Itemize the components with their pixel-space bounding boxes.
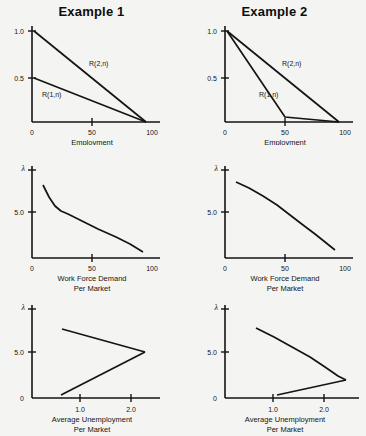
series-label-r2n: R(2,n) (282, 60, 301, 68)
chart-example-2-unemployment: λ 5.0 0 1.0 2.0 Average Unemployment Per… (183, 291, 366, 436)
y-axis-title-lambda: λ (21, 164, 26, 173)
x-tick-label-100: 100 (339, 265, 351, 272)
x-tick-label-50: 50 (281, 265, 289, 272)
series-line-r2n (34, 31, 146, 122)
x-tick-label-50: 50 (281, 129, 289, 136)
x-tick-label-2.0: 2.0 (319, 406, 329, 413)
x-tick-label-50: 50 (88, 265, 96, 272)
chart-example-1-workforce: λ 5.0 0 50 100 Work Force Demand Per Mar… (0, 148, 183, 293)
y-axis-title-lambda: λ (214, 303, 219, 312)
chart-example-2-workforce: λ 5.0 0 50 100 Work Force Demand Per Mar… (183, 148, 366, 293)
x-axis-title: Employment (71, 138, 114, 145)
x-axis-title-line2: Per Market (74, 425, 112, 434)
y-tick-label-0.5: 0.5 (207, 75, 217, 82)
x-axis-title-line2: Per Market (267, 425, 305, 434)
x-tick-label-0: 0 (223, 265, 227, 272)
series-line-r2n (227, 31, 339, 122)
x-tick-label-2.0: 2.0 (126, 406, 136, 413)
chart-example-2-employment: 1.0 0.5 0 50 100 R(2,n) R(1,n) Employmen… (183, 0, 366, 145)
x-tick-label-0: 0 (30, 129, 34, 136)
x-axis-title-line1: Work Force Demand (250, 274, 319, 283)
chart-example-1-unemployment: λ 5.0 0 1.0 2.0 Average Unemployment Per… (0, 291, 183, 436)
panel-example-1-middle: λ 5.0 0 50 100 Work Force Demand Per Mar… (0, 148, 183, 293)
x-axis-title-line1: Average Unemployment (52, 415, 133, 424)
panel-example-1-bottom: λ 5.0 0 1.0 2.0 Average Unemployment Per… (0, 291, 183, 436)
series-label-r2n: R(2,n) (89, 60, 108, 68)
y-tick-label-0: 0 (20, 395, 24, 402)
panel-example-2-bottom: λ 5.0 0 1.0 2.0 Average Unemployment Per… (183, 291, 366, 436)
series-line-upper-branch (256, 328, 346, 380)
x-axis-title-line1: Average Unemployment (245, 415, 326, 424)
x-tick-label-1.0: 1.0 (268, 406, 278, 413)
y-tick-label-1.0: 1.0 (207, 28, 217, 35)
y-tick-label-1.0: 1.0 (14, 28, 24, 35)
panel-example-2-top: Example 2 1.0 0.5 0 50 100 R(2,n) R(1,n)… (183, 0, 366, 145)
series-line-lambda (236, 182, 335, 250)
panel-example-1-top: Example 1 1.0 0.5 0 50 100 R(2,n) R(1,n)… (0, 0, 183, 145)
series-line-lambda (43, 185, 143, 252)
x-tick-label-50: 50 (88, 129, 96, 136)
y-tick-label-0: 0 (213, 395, 217, 402)
x-tick-label-0: 0 (223, 129, 227, 136)
x-axis-title-line1: Work Force Demand (57, 274, 126, 283)
figure-root: Example 1 1.0 0.5 0 50 100 R(2,n) R(1,n)… (0, 0, 366, 436)
chart-example-1-employment: 1.0 0.5 0 50 100 R(2,n) R(1,n) Employmen… (0, 0, 183, 145)
series-line-upper-branch (62, 329, 145, 352)
series-line-r1n (34, 78, 146, 122)
x-axis-title: Employment (264, 138, 307, 145)
y-axis-title-lambda: λ (21, 303, 26, 312)
x-tick-label-100: 100 (146, 265, 158, 272)
y-tick-label-5.0: 5.0 (207, 209, 217, 216)
series-line-lower-branch (277, 380, 346, 395)
y-tick-label-5.0: 5.0 (14, 349, 24, 356)
series-line-lower-branch (61, 352, 145, 395)
y-tick-label-5.0: 5.0 (207, 349, 217, 356)
series-label-r1n: R(1,n) (259, 91, 278, 99)
panel-example-2-middle: λ 5.0 0 50 100 Work Force Demand Per Mar… (183, 148, 366, 293)
series-label-r1n: R(1,n) (42, 91, 61, 99)
x-tick-label-1.0: 1.0 (75, 406, 85, 413)
x-tick-label-0: 0 (30, 265, 34, 272)
x-tick-label-100: 100 (146, 129, 158, 136)
y-tick-label-5.0: 5.0 (14, 209, 24, 216)
x-tick-label-100: 100 (339, 129, 351, 136)
y-tick-label-0.5: 0.5 (14, 75, 24, 82)
y-axis-title-lambda: λ (214, 164, 219, 173)
